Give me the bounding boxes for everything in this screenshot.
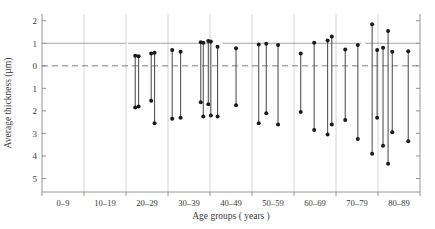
y-tick-label: 2: [33, 106, 38, 116]
x-group-label: 50–59: [262, 198, 283, 208]
data-point-top: [381, 46, 385, 50]
y-tick-label: 0: [33, 61, 38, 71]
data-point-bottom: [390, 130, 394, 134]
data-point-top: [234, 46, 238, 50]
data-point-top: [386, 29, 390, 33]
data-point-bottom: [276, 122, 280, 126]
data-point-bottom: [216, 115, 220, 119]
data-point-top: [312, 41, 316, 45]
data-point-top: [390, 50, 394, 54]
data-point-bottom: [179, 116, 183, 120]
y-tick-label: 3: [33, 129, 38, 139]
data-point-top: [216, 45, 220, 49]
data-point-bottom: [209, 113, 213, 117]
data-point-top: [149, 51, 153, 55]
data-point-bottom: [343, 118, 347, 122]
data-point-bottom: [386, 162, 390, 166]
y-tick-label: 2: [33, 16, 38, 26]
data-point-bottom: [312, 128, 316, 132]
chart-figure: 210123450–910–1920–2930–3940–4950–5960–6…: [0, 0, 435, 229]
data-point-bottom: [370, 152, 374, 156]
data-point-top: [299, 51, 303, 55]
chart-svg: 210123450–910–1920–2930–3940–4950–5960–6…: [0, 0, 435, 229]
data-point-top: [276, 43, 280, 47]
x-group-label: 0–9: [57, 198, 70, 208]
data-point-top: [209, 39, 213, 43]
data-point-bottom: [264, 111, 268, 115]
data-point-bottom: [381, 144, 385, 148]
y-tick-label: 1: [33, 39, 38, 49]
data-point-top: [179, 50, 183, 54]
data-point-top: [153, 51, 157, 55]
x-group-label: 70–79: [346, 198, 367, 208]
x-group-label: 80–89: [388, 198, 409, 208]
data-point-top: [257, 42, 261, 46]
data-point-bottom: [153, 121, 157, 125]
data-point-bottom: [170, 117, 174, 121]
data-point-top: [201, 41, 205, 45]
data-point-top: [343, 48, 347, 52]
data-point-top: [264, 42, 268, 46]
x-group-label: 60–69: [304, 198, 325, 208]
data-point-top: [133, 54, 137, 58]
data-point-top: [326, 39, 330, 43]
data-point-bottom: [299, 110, 303, 114]
y-tick-label: 1: [33, 84, 38, 94]
y-tick-label: 4: [33, 151, 38, 161]
data-point-bottom: [375, 116, 379, 120]
x-group-label: 30–39: [178, 198, 199, 208]
data-point-bottom: [234, 103, 238, 107]
data-point-bottom: [206, 102, 210, 106]
data-point-top: [370, 22, 374, 26]
data-point-top: [406, 49, 410, 53]
data-point-bottom: [201, 115, 205, 119]
data-point-bottom: [326, 133, 330, 137]
x-group-label: 10–19: [94, 198, 115, 208]
data-point-bottom: [149, 99, 153, 103]
x-group-label: 20–29: [136, 198, 157, 208]
data-point-bottom: [199, 100, 203, 104]
y-axis-title: Average thickness (µm): [3, 58, 14, 149]
data-point-bottom: [356, 137, 360, 141]
x-axis-title: Age groups ( years ): [192, 211, 270, 222]
data-point-top: [375, 48, 379, 52]
data-point-top: [330, 35, 334, 39]
data-point-top: [170, 48, 174, 52]
x-group-label: 40–49: [220, 198, 241, 208]
y-tick-label: 5: [33, 174, 38, 184]
data-point-bottom: [257, 121, 261, 125]
data-point-bottom: [330, 122, 334, 126]
data-point-top: [137, 54, 141, 58]
data-point-top: [356, 43, 360, 47]
data-point-bottom: [137, 104, 141, 108]
data-point-bottom: [406, 139, 410, 143]
